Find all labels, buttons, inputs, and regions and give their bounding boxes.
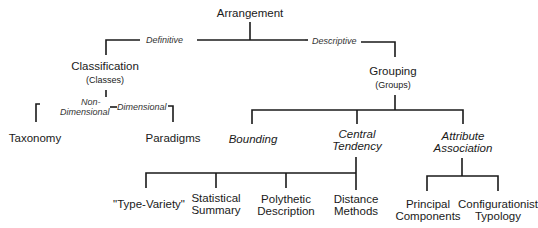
node-classification: Classification <box>71 60 139 72</box>
node-polythetic-description-line1: Polythetic <box>257 193 315 205</box>
node-taxonomy: Taxonomy <box>9 132 61 144</box>
connector-definitive <box>106 40 140 55</box>
node-configurationist-typology-line1: Configurationist <box>458 198 538 210</box>
connector-taxonomy <box>36 104 40 122</box>
arrangement-diagram: Definitive Descriptive Non- Dimensional … <box>0 0 538 228</box>
node-central-tendency-line2: Tendency <box>332 140 381 152</box>
connector-descriptive <box>361 42 395 57</box>
connector-central-bar <box>146 173 356 188</box>
edge-label-dimensional-part: Dimensional <box>60 107 110 117</box>
node-distance-methods-line1: Distance <box>334 193 379 205</box>
node-classification-sub: (Classes) <box>86 74 124 86</box>
node-distance-methods: Distance Methods <box>334 193 379 217</box>
node-attribute-association-line2: Association <box>434 142 493 154</box>
node-statistical-summary-line2: Summary <box>191 204 240 216</box>
node-configurationist-typology-line2: Typology <box>458 210 538 222</box>
node-grouping-sub: (Groups) <box>375 79 411 91</box>
node-attribute-association-line1: Attribute <box>434 130 493 142</box>
node-attribute-association: Attribute Association <box>434 130 493 154</box>
node-configurationist-typology: Configurationist Typology <box>458 198 538 222</box>
edge-label-dimensional: Dimensional <box>117 102 167 112</box>
edge-label-non-dimensional: Non- Dimensional <box>60 97 110 117</box>
node-grouping: Grouping <box>369 65 416 77</box>
node-statistical-summary-line1: Statistical <box>191 192 240 204</box>
node-polythetic-description: Polythetic Description <box>257 193 315 217</box>
edge-label-definitive: Definitive <box>146 35 183 45</box>
node-bounding: Bounding <box>229 133 278 145</box>
node-paradigms: Paradigms <box>146 132 201 144</box>
node-central-tendency: Central Tendency <box>332 128 381 152</box>
node-principal-components-line2: Components <box>395 210 460 222</box>
node-central-tendency-line1: Central <box>332 128 381 140</box>
node-arrangement: Arrangement <box>217 7 283 19</box>
connector-paradigms <box>168 106 173 122</box>
node-statistical-summary: Statistical Summary <box>191 192 240 216</box>
node-principal-components-line1: Principal <box>395 198 460 210</box>
node-polythetic-description-line2: Description <box>257 205 315 217</box>
connector-attribute-bar <box>427 176 498 191</box>
edge-label-non: Non- <box>60 97 110 107</box>
edge-label-descriptive: Descriptive <box>312 36 357 46</box>
node-type-variety: "Type-Variety" <box>113 198 185 210</box>
node-principal-components: Principal Components <box>395 198 460 222</box>
node-distance-methods-line2: Methods <box>334 205 379 217</box>
